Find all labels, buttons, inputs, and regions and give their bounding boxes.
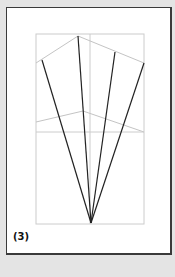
- ray-1: [42, 60, 91, 223]
- ray-3: [91, 52, 115, 223]
- ray-2: [78, 36, 91, 223]
- rays: [42, 36, 144, 223]
- ray-4: [91, 63, 144, 223]
- figure-label: (3): [13, 231, 29, 242]
